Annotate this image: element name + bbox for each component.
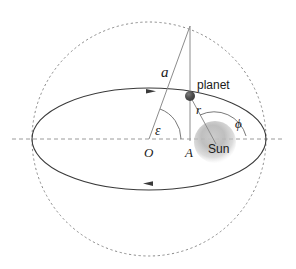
label-sun: Sun: [208, 142, 229, 156]
label-planet: planet: [197, 78, 230, 92]
label-eccentric-anomaly: ε: [155, 123, 161, 138]
label-perihelion-point: A: [184, 145, 193, 160]
label-center-point: O: [144, 145, 154, 160]
label-semi-major-axis: a: [161, 64, 169, 80]
figure-background: [0, 0, 296, 269]
planet-body: [185, 91, 195, 101]
label-true-anomaly: ϕ: [235, 116, 242, 131]
orbit-diagram-figure: a r ε ϕ O A planet Sun: [0, 0, 296, 269]
orbit-diagram-svg: a r ε ϕ O A planet Sun: [0, 0, 296, 269]
